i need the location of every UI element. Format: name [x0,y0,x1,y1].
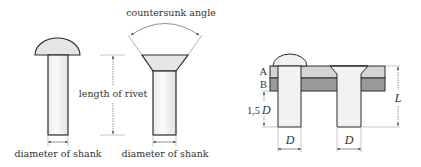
countersunk-rivet-shank-label: diameter of shank [121,148,208,159]
countersunk-angle-label: countersunk angle [126,7,216,18]
riveted-joint [262,54,400,152]
protrusion-label-num: 1,5 [247,105,260,116]
countersunk-rivet [128,24,202,147]
rivet-length-label: length of rivet [79,88,148,99]
joint-rivet-shank [278,66,301,127]
diameter-d-label-left: D [285,133,295,147]
countersunk-shank [153,71,176,135]
snap-rivet-shank-label: diameter of shank [14,148,101,159]
plate-b-label: B [260,79,267,90]
length-l-label: L [394,91,402,105]
rivet-diagram: diameter of shank length of rivet counte… [0,0,421,167]
protrusion-label-var: D [261,103,271,117]
snap-head-rivet [35,38,80,146]
countersunk-head [142,55,188,71]
countersunk-angle-arc [131,24,199,36]
diameter-d-label-right: D [344,133,354,147]
rivet-shank [48,55,68,135]
rivet-head [35,38,80,55]
joint-rivet-head [273,54,307,66]
plate-a-label: A [259,66,267,77]
